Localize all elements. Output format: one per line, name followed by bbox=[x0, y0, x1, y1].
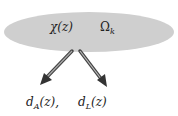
label-dA: dA(z), bbox=[26, 96, 59, 111]
arrow-to-dL-icon bbox=[80, 51, 107, 87]
label-dA-rest: (z), bbox=[39, 95, 59, 109]
label-chi: χ(z) bbox=[50, 21, 73, 33]
label-omega-main: Ω bbox=[100, 20, 110, 34]
label-dL-rest: (z) bbox=[91, 95, 107, 109]
label-dA-main: d bbox=[26, 95, 34, 109]
arrow-to-dA-icon bbox=[40, 51, 72, 85]
label-omega-k: Ωk bbox=[100, 21, 115, 36]
label-omega-sub: k bbox=[110, 27, 115, 36]
label-dL: dL(z) bbox=[78, 96, 107, 111]
parameter-ellipse bbox=[4, 12, 174, 52]
label-dL-main: d bbox=[78, 95, 86, 109]
